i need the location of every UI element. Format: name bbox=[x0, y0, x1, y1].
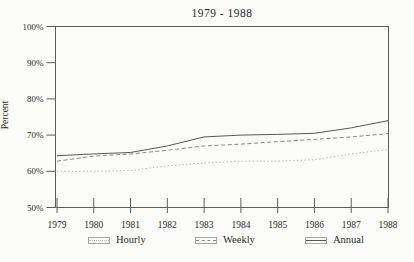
series-line-hourly bbox=[57, 150, 388, 172]
plot-svg: 50%60%70%80%90%100%197919801981198219831… bbox=[0, 0, 414, 262]
x-tick-label: 1985 bbox=[268, 220, 287, 230]
legend-sample-weekly-icon bbox=[195, 237, 217, 244]
y-tick-label: 60% bbox=[27, 166, 44, 176]
x-tick-label: 1983 bbox=[195, 220, 214, 230]
x-tick-label: 1980 bbox=[84, 220, 103, 230]
y-tick-label: 80% bbox=[27, 94, 44, 104]
plot-frame bbox=[56, 27, 389, 208]
legend-item-annual: Annual bbox=[305, 233, 364, 247]
chart-container: 1979 - 1988 Percent 50%60%70%80%90%100%1… bbox=[0, 0, 414, 262]
legend-sample-hourly-icon bbox=[88, 237, 110, 244]
series-line-annual bbox=[57, 121, 388, 156]
legend: Hourly Weekly Annual bbox=[0, 233, 414, 249]
legend-item-weekly: Weekly bbox=[195, 233, 255, 247]
y-tick-label: 90% bbox=[27, 58, 44, 68]
y-tick-label: 70% bbox=[27, 130, 44, 140]
legend-label-weekly: Weekly bbox=[223, 233, 255, 247]
y-tick-label: 100% bbox=[23, 22, 45, 32]
legend-item-hourly: Hourly bbox=[88, 233, 146, 247]
x-tick-label: 1988 bbox=[379, 220, 398, 230]
legend-label-hourly: Hourly bbox=[116, 233, 146, 247]
x-tick-label: 1987 bbox=[342, 220, 361, 230]
x-tick-label: 1984 bbox=[231, 220, 250, 230]
series-line-weekly bbox=[57, 134, 388, 162]
legend-sample-annual-icon bbox=[305, 237, 327, 244]
x-tick-label: 1979 bbox=[48, 220, 67, 230]
legend-label-annual: Annual bbox=[333, 233, 364, 247]
x-tick-label: 1982 bbox=[158, 220, 177, 230]
x-tick-label: 1981 bbox=[121, 220, 140, 230]
y-tick-label: 50% bbox=[27, 203, 44, 213]
x-tick-label: 1986 bbox=[305, 220, 324, 230]
